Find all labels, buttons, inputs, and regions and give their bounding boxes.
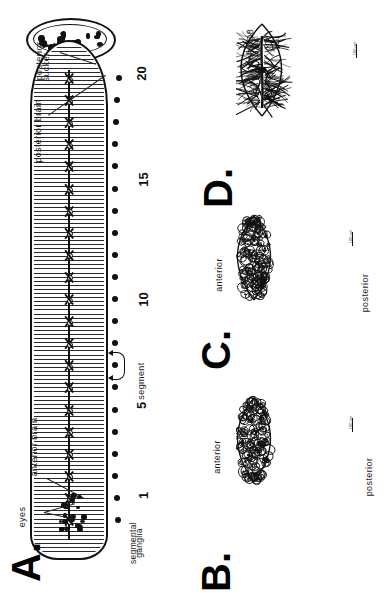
ganglion-cell-nucleus [238,430,240,432]
segmental-ganglion [62,249,75,262]
ganglion-core [67,474,73,480]
ganglion-cell-nucleus [241,287,243,289]
ganglion-cell-nucleus [262,275,264,277]
panel-c-label-anterior: anterior [214,258,224,292]
ganglion-cell-nucleus [252,429,254,431]
ganglion-cell-nucleus [257,261,259,263]
ganglion-cell-nucleus [244,473,246,475]
segmental-ganglion [62,183,75,196]
ganglion-cell-nucleus [242,416,244,418]
ganglion-scale-dot [112,274,118,280]
ganglion-cell-nucleus [263,249,266,252]
segmental-ganglion [62,404,75,417]
panel-b-scale-label: 100 µm [348,416,353,429]
ganglion-core [67,165,73,171]
ganglion-scale-dot [114,97,120,103]
ganglion-cell-nucleus [267,243,270,246]
ganglion-cell-nucleus [238,443,240,445]
segment-bracket [112,352,125,380]
segmental-ganglion [62,315,75,328]
ganglion-cell-nucleus [262,285,264,287]
ganglion-scale-dot [112,186,118,192]
ganglion-cell-nucleus [257,222,259,224]
ganglion-cell-nucleus [253,449,255,451]
panel-c-label-posterior: posterior [360,274,370,313]
ganglion-scale-dot [115,517,121,523]
label-posterior-sucker-line2: sucker [41,53,51,82]
segmental-ganglion [62,271,75,284]
ganglion-cell-nucleus [241,451,243,453]
panel-c-scale-label: 100 µm [348,230,353,243]
ganglion-cell-nucleus [240,256,242,258]
segmental-ganglion [62,337,75,350]
ganglion-core [67,275,73,281]
ganglion-cell-nucleus [244,250,247,253]
ganglion-cell-nucleus [264,276,266,278]
scale-number-15: 15 [136,172,151,186]
head-ganglion-cell [59,528,63,532]
ganglion-core [67,364,73,370]
ganglion-scale-dot [112,407,118,413]
ganglion-cell-nucleus [249,444,251,446]
panel-a: posterior sucker posterior brain anterio… [0,0,193,606]
ganglion-cell-nucleus [248,270,250,272]
ganglion-cell-nucleus [263,411,265,413]
head-ganglion-cell [62,519,67,523]
ganglion-scale-dot [112,429,118,435]
head-ganglion-cell [81,514,87,520]
scale-number-20: 20 [134,66,149,80]
ganglion-cell-nucleus [263,259,264,260]
ganglion-cell-nucleus [247,238,250,241]
ganglion-cell-nucleus [244,293,246,295]
panel-letter-b: B. [196,552,236,592]
segment-arrow-bottom [108,375,113,381]
head-ganglion-cell [65,526,68,531]
label-anterior-brain: anterior brain [29,418,39,477]
ganglion-cell-nucleus [260,287,262,289]
ganglion-cell-nucleus [261,474,263,476]
ganglion-core [67,430,73,436]
segmental-ganglion [62,293,75,306]
ganglion-scale-dot [113,119,119,125]
ganglion-scale-dot [112,296,118,302]
ganglion-scale-dot [112,230,118,236]
ganglion-cell-nucleus [257,442,260,445]
ganglion-cell-nucleus [242,420,244,422]
ganglion-cell-nucleus [266,414,269,417]
ganglion-cell-nucleus [260,242,261,243]
ganglion-cell-nucleus [263,280,264,281]
ganglion-cell-nucleus [258,266,261,269]
ganglion-cell-nucleus [264,279,265,280]
ganglion-cell-nucleus [250,269,251,270]
ganglion-cell-nucleus [248,249,251,252]
ganglion-core [67,386,73,392]
ganglion-cell-nucleus [249,478,250,479]
ganglion-cell-nucleus [267,261,270,264]
ganglion-cell-nucleus [257,217,260,220]
ganglion-cell-nucleus [250,286,253,289]
ganglion-cell-nucleus [242,240,244,242]
ganglion-cell-nucleus [255,253,258,256]
ganglion-cell-nucleus [259,221,261,223]
ganglion-scale-dot [112,384,118,390]
ganglion-cell-nucleus [261,226,263,228]
ganglion-cell-nucleus [262,268,264,270]
ganglion-cell-nucleus [241,277,242,278]
ganglion-scale-dot [112,252,118,258]
segment-arrow-top [108,350,113,356]
ganglion-cell-nucleus [255,479,258,482]
ganglion-scale-dot [112,318,118,324]
ganglion-cell-nucleus [241,440,244,443]
ganglion-cell-nucleus [244,461,246,463]
ganglion-core [67,253,73,259]
ganglion-core [67,231,73,237]
ganglion-core [67,143,73,149]
ganglion-cell-nucleus [251,415,252,416]
panel-d-neuron-map [236,18,386,202]
ganglion-cell-nucleus [262,441,264,443]
panel-b-label-posterior: posterior [364,458,374,497]
panel-b-label-anterior: anterior [212,440,222,474]
segmental-ganglion [62,381,75,394]
ganglion-cell-nucleus [262,445,264,447]
ganglion-core [67,187,73,193]
